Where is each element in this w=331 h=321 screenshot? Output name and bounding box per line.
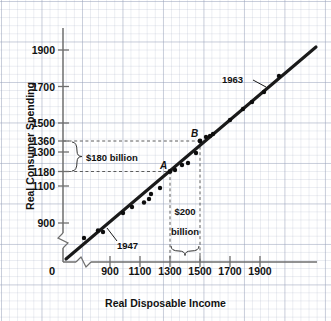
data-point [241,107,245,111]
data-point [130,205,134,209]
data-point [101,230,105,234]
leader-1963 [253,80,266,87]
y-axis-break-icon [58,233,68,248]
y-axis-title: Real Consumer Spending [24,66,36,226]
data-point [250,100,254,104]
origin-label: 0 [45,266,59,277]
run-label-line1: $200 [172,206,198,217]
data-point [186,161,190,165]
x-axis-title: Real Disposable Income [0,297,331,309]
data-point [147,197,151,201]
year-1963-label: 1963 [222,74,243,85]
data-point [262,90,266,94]
data-point [277,74,281,78]
data-point [158,186,162,190]
year-1947-label: 1947 [117,240,138,251]
data-point [228,118,232,122]
data-point [211,132,215,136]
point-b-label: B [191,128,198,139]
x-tick-label-1900: 1900 [236,266,284,277]
data-point [204,135,208,139]
data-point [96,228,100,232]
data-point [121,211,125,215]
data-point [194,151,198,155]
point-a-label: A [160,160,167,171]
data-point-b [198,139,203,144]
y-tick-label-1900: 1900 [2,45,55,56]
data-point [142,200,146,204]
brace-180-billion [72,142,82,171]
data-point [180,163,184,167]
data-point [82,236,86,240]
brace-200-billion [171,246,199,256]
rise-label: $180 billion [86,152,138,163]
data-point-a [168,169,173,174]
consumption-function-chart: 1900 1700 1500 1360 1300 1180 1100 900 0… [0,0,331,321]
run-label-line2: billion [169,226,201,237]
data-point [149,192,153,196]
leader-1947 [107,228,117,241]
data-point [173,168,177,172]
